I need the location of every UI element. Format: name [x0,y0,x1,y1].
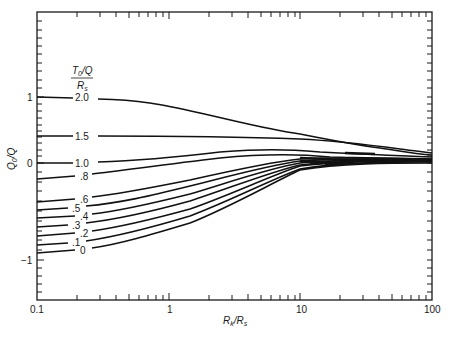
y-tick-label: −1 [21,255,33,266]
curves [37,97,432,253]
curve-0.2 [37,161,432,236]
x-tick-label: 0.1 [30,304,44,315]
x-tick-label: 1 [167,304,173,315]
y-tick-label: 1 [27,92,33,103]
svg-text:T0/Q: T0/Q [72,65,93,77]
curve-label: 1.5 [75,131,89,142]
curve-label: 2.0 [75,92,89,103]
top-axis-ticks [77,12,426,19]
legend-title: T0/Q Rs [71,65,93,92]
chart: 0.1 1 10 100 1 0 −1 Q0/Q Rk/Rs T0/Q Rs 2… [0,0,450,339]
curve-label: 1.0 [75,158,89,169]
x-tick-label: 10 [296,304,308,315]
curve-label: .6 [80,194,89,205]
x-axis-title: Rk/Rs [223,315,248,327]
svg-text:Q0/Q: Q0/Q [6,148,18,170]
curve-0.4 [37,160,432,218]
svg-text:Rs: Rs [77,80,88,92]
y-axis-title: Q0/Q [6,148,18,170]
curve-label: .2 [80,228,89,239]
y-tick-label: 0 [27,158,33,169]
curve-label: .8 [80,171,89,182]
x-axis-ticks [77,293,426,300]
y-axis-ticks [37,21,44,292]
curve-label: 0 [80,245,86,256]
curve-label: .4 [80,211,89,222]
x-tick-label: 100 [424,304,441,315]
